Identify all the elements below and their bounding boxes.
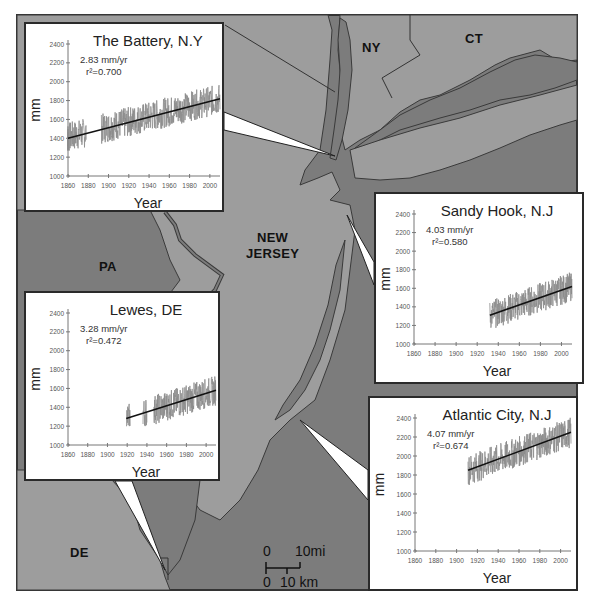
x-tick-label: 1860 — [61, 182, 76, 189]
y-tick-label: 1000 — [396, 341, 411, 348]
series-line — [126, 404, 130, 426]
y-axis-label: mm — [27, 98, 43, 121]
y-tick-label: 1000 — [397, 548, 412, 555]
r2-annotation: r²=0.700 — [86, 66, 122, 77]
y-tick-label: 1600 — [396, 285, 411, 292]
rate-annotation: 4.07 mm/yr — [427, 428, 475, 439]
y-tick-label: 2200 — [396, 229, 411, 236]
x-axis-label: Year — [483, 363, 512, 379]
x-tick-label: 1980 — [533, 557, 548, 564]
y-axis-label: mm — [377, 267, 393, 290]
y-tick-label: 1600 — [50, 385, 65, 392]
x-tick-label: 2000 — [554, 350, 569, 357]
x-tick-label: 1860 — [408, 557, 423, 564]
chart-atlantic-city: 1000120014001600180020002200240018601880… — [370, 398, 580, 593]
chart-title: Lewes, DE — [110, 301, 183, 318]
rate-annotation: 2.83 mm/yr — [80, 54, 128, 65]
x-tick-label: 1880 — [428, 350, 443, 357]
x-tick-label: 1920 — [470, 350, 485, 357]
y-axis-label: mm — [371, 473, 387, 496]
x-tick-label: 2000 — [199, 451, 214, 458]
y-axis-label: mm — [27, 367, 43, 390]
x-tick-label: 1920 — [122, 182, 137, 189]
x-tick-label: 1900 — [100, 451, 115, 458]
y-tick-label: 1400 — [50, 404, 65, 411]
y-tick-label: 2000 — [50, 78, 65, 85]
plot-area: 1000120014001600180020002200240018601880… — [397, 414, 571, 564]
y-tick-label: 1800 — [396, 266, 411, 273]
y-tick-label: 1200 — [396, 322, 411, 329]
x-tick-label: 1980 — [533, 350, 548, 357]
chart-panel-the-battery: 1000120014001600180020002200240018601880… — [24, 22, 224, 212]
x-tick-label: 1920 — [120, 451, 135, 458]
x-tick-label: 1900 — [101, 182, 116, 189]
y-tick-label: 1800 — [397, 472, 412, 479]
chart-sandy-hook: 1000120014001600180020002200240018601880… — [376, 194, 586, 386]
plot-area: 1000120014001600180020002200240018601880… — [50, 309, 216, 458]
r2-annotation: r²=0.472 — [86, 335, 122, 346]
x-axis-label: Year — [132, 464, 161, 480]
y-tick-label: 2200 — [397, 434, 412, 441]
chart-panel-lewes: 1000120014001600180020002200240018601880… — [24, 291, 220, 481]
plot-area: 1000120014001600180020002200240018601880… — [50, 40, 220, 189]
y-tick-label: 1600 — [50, 116, 65, 123]
chart-title: Atlantic City, N.J — [443, 406, 552, 423]
chart-panel-sandy-hook: 1000120014001600180020002200240018601880… — [374, 192, 584, 384]
y-tick-label: 2000 — [50, 347, 65, 354]
chart-panel-atlantic-city: 1000120014001600180020002200240018601880… — [368, 396, 578, 591]
plot-area: 1000120014001600180020002200240018601880… — [396, 210, 572, 357]
x-axis-label: Year — [483, 570, 512, 586]
x-tick-label: 1940 — [142, 182, 157, 189]
y-tick-label: 2200 — [50, 328, 65, 335]
y-tick-label: 1200 — [50, 423, 65, 430]
x-tick-label: 1880 — [80, 451, 95, 458]
x-tick-label: 2000 — [553, 557, 568, 564]
y-tick-label: 2400 — [397, 415, 412, 422]
x-tick-label: 1880 — [429, 557, 444, 564]
chart-lewes: 1000120014001600180020002200240018601880… — [26, 293, 222, 483]
y-tick-label: 1000 — [50, 442, 65, 449]
rate-annotation: 4.03 mm/yr — [426, 224, 474, 235]
x-tick-label: 1960 — [512, 557, 527, 564]
x-tick-label: 2000 — [203, 182, 218, 189]
x-tick-label: 1940 — [140, 451, 155, 458]
y-tick-label: 1800 — [50, 97, 65, 104]
x-tick-label: 1860 — [407, 350, 422, 357]
x-tick-label: 1980 — [179, 451, 194, 458]
y-tick-label: 1400 — [396, 303, 411, 310]
y-tick-label: 1400 — [397, 510, 412, 517]
x-tick-label: 1920 — [470, 557, 485, 564]
y-tick-label: 2000 — [397, 453, 412, 460]
y-tick-label: 1400 — [50, 135, 65, 142]
rate-annotation: 3.28 mm/yr — [80, 323, 128, 334]
callout-wedge — [224, 112, 335, 156]
r2-annotation: r²=0.580 — [432, 236, 468, 247]
y-tick-label: 1600 — [397, 491, 412, 498]
callout-wedge — [300, 420, 368, 500]
x-tick-label: 1980 — [182, 182, 197, 189]
y-tick-label: 1000 — [50, 173, 65, 180]
callout-wedge — [347, 215, 374, 285]
x-tick-label: 1940 — [491, 557, 506, 564]
r2-annotation: r²=0.674 — [433, 440, 469, 451]
y-tick-label: 1800 — [50, 366, 65, 373]
callout-wedge — [115, 481, 165, 570]
x-tick-label: 1900 — [449, 350, 464, 357]
x-tick-label: 1960 — [159, 451, 174, 458]
y-tick-label: 2400 — [50, 310, 65, 317]
x-tick-label: 1880 — [81, 182, 96, 189]
y-tick-label: 1200 — [50, 154, 65, 161]
x-tick-label: 1960 — [512, 350, 527, 357]
chart-title: Sandy Hook, N.J — [441, 202, 554, 219]
chart-title: The Battery, N.Y — [93, 32, 203, 49]
x-tick-label: 1940 — [491, 350, 506, 357]
y-tick-label: 2000 — [396, 248, 411, 255]
x-tick-label: 1860 — [61, 451, 76, 458]
chart-the-battery: 1000120014001600180020002200240018601880… — [26, 24, 226, 214]
y-tick-label: 2400 — [396, 211, 411, 218]
x-tick-label: 1900 — [449, 557, 464, 564]
y-tick-label: 2200 — [50, 59, 65, 66]
y-tick-label: 2400 — [50, 41, 65, 48]
x-tick-label: 1960 — [162, 182, 177, 189]
y-tick-label: 1200 — [397, 529, 412, 536]
